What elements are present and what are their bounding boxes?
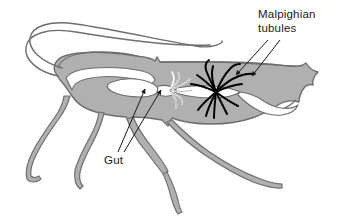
anatomy-diagram: Malpighian tubules Gut	[0, 0, 343, 222]
hind-leg-tibia	[163, 172, 182, 214]
label-gut-line1: Gut	[104, 154, 124, 166]
hind-leg-femur	[127, 117, 168, 175]
label-malpighian-line1: Malpighian	[258, 8, 316, 20]
label-malpighian-tubules: Malpighian tubules	[258, 8, 316, 34]
insect-body-group	[26, 52, 318, 214]
middle-leg	[75, 112, 104, 189]
insect-anatomy-figure: Malpighian tubules Gut	[0, 0, 343, 222]
rear-hind-leg	[167, 120, 282, 188]
label-malpighian-line2: tubules	[258, 22, 297, 34]
label-gut: Gut	[104, 154, 124, 166]
front-leg	[26, 96, 70, 182]
